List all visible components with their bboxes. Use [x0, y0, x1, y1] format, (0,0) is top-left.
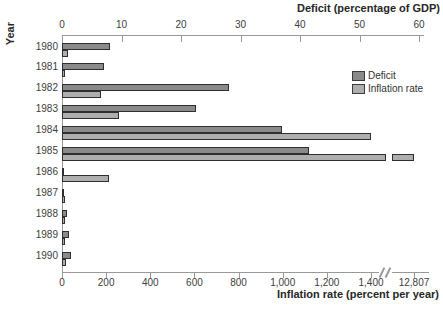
year-label: 1980: [0, 41, 58, 52]
bar-inflation-1984: [62, 133, 371, 140]
deficit-axis-tick-label: 40: [284, 19, 316, 30]
inflation-axis-title: Inflation rate (percent per year): [277, 288, 439, 300]
bar-inflation-1982: [62, 91, 101, 98]
bar-deficit-1984: [62, 126, 282, 133]
legend-item-deficit: Deficit: [352, 69, 423, 82]
year-label: 1987: [0, 187, 58, 198]
deficit-axis-tick: [62, 35, 63, 42]
bar-deficit-1988: [62, 210, 67, 217]
inflation-axis-tick-label: 1,000: [263, 277, 303, 288]
legend-item-inflation: Inflation rate: [352, 82, 423, 95]
deficit-axis-tick: [241, 35, 242, 42]
deficit-axis-line: [62, 35, 424, 36]
inflation-legend-swatch: [352, 84, 365, 94]
inflation-axis-tick-label: 1,200: [307, 277, 347, 288]
inflation-axis-tick-label: 0: [42, 277, 82, 288]
bar-deficit-1983: [62, 105, 196, 112]
bar-inflation-1985-segment-left: [62, 154, 386, 161]
legend-label-inflation: Inflation rate: [368, 83, 423, 94]
year-label: 1988: [0, 208, 58, 219]
bar-deficit-1989: [62, 231, 69, 238]
bar-inflation-1981: [62, 70, 65, 77]
year-label: 1983: [0, 103, 58, 114]
deficit-axis-tick-label: 50: [344, 19, 376, 30]
deficit-axis-tick-label: 10: [106, 19, 138, 30]
plot-area: 010203040506002004006008001,0001,2001,40…: [0, 0, 443, 309]
year-label: 1982: [0, 82, 58, 93]
year-label: 1984: [0, 124, 58, 135]
legend-label-deficit: Deficit: [368, 70, 396, 81]
bar-deficit-1985: [62, 147, 309, 154]
inflation-axis-tick-label: 800: [219, 277, 259, 288]
inflation-axis-tick-label: 1,400: [351, 277, 391, 288]
deficit-axis-tick: [181, 35, 182, 42]
legend: Deficit Inflation rate: [352, 69, 423, 95]
deficit-axis-tick: [360, 35, 361, 42]
year-label: 1981: [0, 61, 58, 72]
deficit-axis-tick-label: 60: [403, 19, 435, 30]
year-label: 1985: [0, 145, 58, 156]
inflation-axis-overflow-label: 12,807: [392, 277, 436, 288]
inflation-axis-tick-label: 400: [130, 277, 170, 288]
bar-deficit-1987: [62, 189, 64, 196]
deficit-axis-tick: [122, 35, 123, 42]
deficit-axis-tick-label: 0: [46, 19, 78, 30]
bar-chart-figure: Deficit (percentage of GDP) Year 0102030…: [0, 0, 443, 309]
bar-deficit-1986: [62, 168, 64, 175]
bar-inflation-1990: [62, 259, 66, 266]
year-label: 1990: [0, 250, 58, 261]
year-label: 1989: [0, 229, 58, 240]
bar-inflation-1987: [62, 196, 65, 203]
deficit-axis-tick: [419, 35, 420, 42]
bar-inflation-1985-segment-right: [392, 154, 414, 161]
bar-deficit-1981: [62, 63, 104, 70]
year-label: 1986: [0, 166, 58, 177]
bar-deficit-1982: [62, 84, 229, 91]
bar-deficit-1980: [62, 43, 110, 50]
bar-deficit-1990: [62, 252, 71, 259]
inflation-axis-line: [62, 272, 429, 273]
bar-inflation-1980: [62, 50, 68, 57]
bar-inflation-1988: [62, 217, 65, 224]
bar-inflation-1986: [62, 175, 109, 182]
deficit-axis-tick-label: 30: [225, 19, 257, 30]
deficit-legend-swatch: [352, 71, 365, 81]
bar-inflation-1989: [62, 238, 65, 245]
inflation-axis-tick-label: 200: [86, 277, 126, 288]
inflation-axis-tick-label: 600: [174, 277, 214, 288]
deficit-axis-tick: [300, 35, 301, 42]
deficit-axis-tick-label: 20: [165, 19, 197, 30]
bar-inflation-1983: [62, 112, 119, 119]
